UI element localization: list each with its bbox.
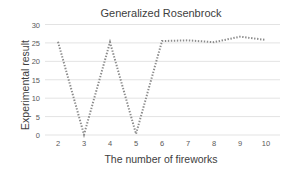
data-series-line — [58, 37, 266, 135]
x-tick-label: 3 — [82, 139, 86, 148]
y-tick-label: 30 — [32, 21, 40, 30]
y-tick-label: 25 — [32, 39, 40, 48]
x-tick-label: 8 — [212, 139, 216, 148]
y-tick-label: 5 — [36, 113, 40, 122]
y-tick-label: 20 — [32, 57, 40, 66]
x-tick-label: 4 — [108, 139, 112, 148]
y-tick-label: 15 — [32, 76, 40, 85]
x-tick-label: 2 — [56, 139, 60, 148]
y-tick-label: 10 — [32, 94, 40, 103]
x-tick-label: 6 — [160, 139, 164, 148]
line-plot: 0510152025302345678910 — [0, 0, 292, 170]
x-tick-label: 10 — [262, 139, 270, 148]
x-tick-label: 5 — [134, 139, 138, 148]
x-tick-label: 9 — [238, 139, 242, 148]
y-tick-label: 0 — [36, 131, 40, 140]
x-tick-label: 7 — [186, 139, 190, 148]
